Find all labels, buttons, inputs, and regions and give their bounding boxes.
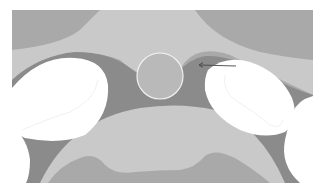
central-circle bbox=[137, 53, 183, 99]
diagram-canvas bbox=[0, 0, 322, 189]
anatomical-cross-section-illustration bbox=[0, 0, 322, 189]
